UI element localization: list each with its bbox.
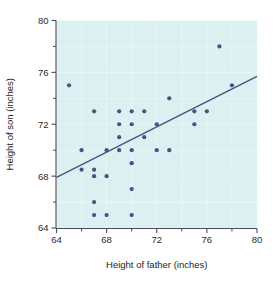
data-point [205, 109, 209, 113]
y-tick-label: 76 [38, 67, 49, 78]
chart-canvas: 64687276806468727680 Height of father (i… [0, 0, 279, 282]
data-point [117, 122, 121, 126]
y-tick-label: 64 [38, 222, 49, 233]
data-point [105, 174, 109, 178]
y-tick-label: 68 [38, 171, 49, 182]
data-point [92, 213, 96, 217]
data-point [117, 109, 121, 113]
x-axis-title: Height of father (inches) [106, 259, 207, 270]
scatter-plot-figure: 64687276806468727680 Height of father (i… [0, 0, 279, 282]
data-point [92, 174, 96, 178]
data-point [92, 168, 96, 172]
data-point [130, 213, 134, 217]
x-tick-label: 72 [151, 234, 162, 245]
data-point [155, 148, 159, 152]
data-point [167, 96, 171, 100]
data-point [130, 187, 134, 191]
data-point [79, 168, 83, 172]
data-point [230, 83, 234, 87]
x-tick-label: 64 [51, 234, 62, 245]
data-point [142, 135, 146, 139]
data-point [67, 83, 71, 87]
y-tick-label: 72 [38, 119, 49, 130]
data-point [155, 122, 159, 126]
data-point [92, 200, 96, 204]
x-tick-label: 68 [101, 234, 112, 245]
data-point [142, 109, 146, 113]
data-point [217, 44, 221, 48]
data-point [130, 109, 134, 113]
data-point [117, 135, 121, 139]
data-point [117, 148, 121, 152]
y-axis-title: Height of son (inches) [4, 78, 15, 170]
data-point [79, 148, 83, 152]
x-tick-label: 80 [252, 234, 263, 245]
data-point [92, 109, 96, 113]
data-point [192, 122, 196, 126]
data-point [130, 161, 134, 165]
data-point [130, 148, 134, 152]
data-point [105, 148, 109, 152]
data-point [167, 148, 171, 152]
data-point [130, 122, 134, 126]
y-tick-label: 80 [38, 15, 49, 26]
x-tick-label: 76 [202, 234, 213, 245]
data-point [192, 109, 196, 113]
data-point [105, 213, 109, 217]
